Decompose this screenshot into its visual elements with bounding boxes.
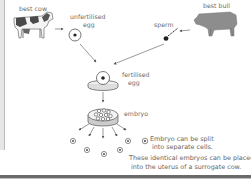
sperm-icon [164, 28, 178, 41]
fertilised-egg-dish-icon [88, 72, 118, 91]
caption-implant-line1: These identical embryos can be placed [129, 154, 251, 162]
cell-icon [70, 138, 75, 143]
arrow-bull-to-sperm [180, 30, 190, 31]
arrow-sperm-to-fertilised [114, 44, 164, 64]
cow-icon [14, 12, 53, 38]
cell-icon [101, 151, 106, 156]
label-fertilised-egg: egg [128, 79, 140, 86]
cell-icon [125, 138, 130, 143]
label-egg: egg [83, 21, 95, 28]
label-fertilised: fertilised [122, 71, 150, 78]
label-best-cow: best cow [19, 5, 47, 12]
caption-implant-line2: into the uterus of a surrogate cow. [131, 163, 241, 171]
unfertilised-egg-icon [69, 29, 81, 41]
arrow-egg-to-fertilised [80, 44, 96, 62]
cell-icon [84, 147, 89, 152]
cell-icon [117, 147, 122, 152]
label-unfertilised: unfertilised [70, 13, 106, 20]
label-sperm: sperm [154, 21, 174, 28]
label-best-bull: best bull [203, 2, 230, 9]
cell-icon [142, 138, 148, 144]
caption-split-line2: into separate cells. [152, 143, 213, 151]
caption-split-line1: Embryo can be split [150, 135, 214, 143]
embryo-dish-icon [88, 109, 118, 126]
bottom-divider-shadow [0, 178, 251, 179]
label-embryo: embryo [124, 110, 148, 117]
bull-icon [194, 12, 237, 36]
